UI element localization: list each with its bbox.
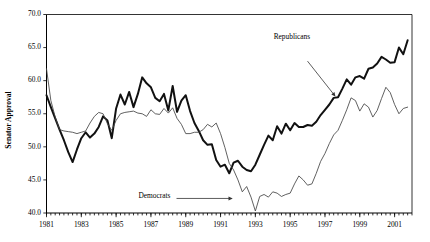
y-tick-label: 70.0 [28, 9, 41, 18]
x-tick-label: 1983 [74, 220, 89, 229]
x-tick-label: 1987 [144, 220, 159, 229]
y-tick-label: 40.0 [28, 208, 41, 217]
chart-canvas: 70.065.060.055.050.045.040.0 19811983198… [0, 0, 430, 242]
y-tick-label: 60.0 [28, 75, 41, 84]
y-tick-label: 50.0 [28, 142, 41, 151]
x-tick-label: 2001 [387, 220, 402, 229]
annotation-label-republicans: Republicans [274, 32, 311, 41]
x-tick-label: 1989 [178, 220, 193, 229]
x-tick-label: 1991 [213, 220, 228, 229]
x-tick-label: 1993 [248, 220, 263, 229]
x-tick-label: 1981 [39, 220, 54, 229]
y-tick-label: 65.0 [28, 42, 41, 51]
y-tick-label: 45.0 [28, 175, 41, 184]
y-tick-label: 55.0 [28, 108, 41, 117]
x-tick-label: 1999 [352, 220, 367, 229]
y-axis-label: Senator Approval [4, 91, 13, 148]
senator-approval-chart: 70.065.060.055.050.045.040.0 19811983198… [0, 0, 430, 242]
x-tick-label: 1985 [109, 220, 124, 229]
annotation-label-democrats: Democrats [138, 191, 170, 200]
chart-background [0, 0, 430, 242]
x-tick-label: 1997 [318, 220, 333, 229]
x-tick-label: 1995 [283, 220, 298, 229]
